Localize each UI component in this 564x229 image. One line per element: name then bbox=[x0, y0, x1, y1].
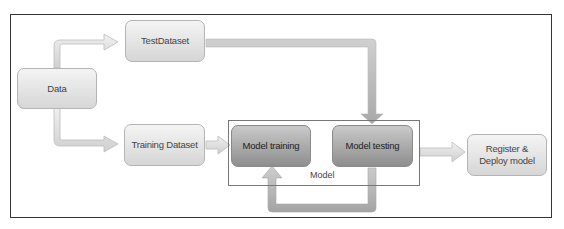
arrow-testing-to-register bbox=[420, 142, 465, 162]
arrow-test-to-testing bbox=[206, 39, 383, 124]
node-model-training: Model training bbox=[231, 125, 311, 167]
arrow-data-to-test bbox=[54, 34, 118, 68]
node-model-testing: Model testing bbox=[332, 125, 413, 167]
node-register-deploy: Register & Deploy model bbox=[467, 134, 547, 176]
model-group-label: Model bbox=[310, 170, 335, 180]
arrow-data-to-training bbox=[54, 108, 118, 152]
node-test-dataset: TestDataset bbox=[125, 20, 205, 62]
node-training-dataset: Training Dataset bbox=[124, 124, 205, 166]
arrow-training-to-modeltraining bbox=[206, 136, 230, 154]
connector-arrows bbox=[0, 0, 564, 229]
node-data: Data bbox=[17, 68, 97, 109]
